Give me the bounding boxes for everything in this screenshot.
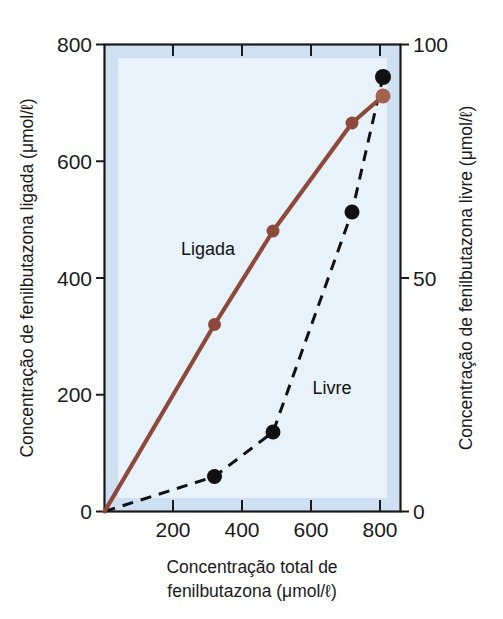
chart-figure: 800 600 400 200 0 100 50 0 bbox=[0, 0, 503, 619]
series-livre-point bbox=[345, 205, 360, 220]
series-label-livre: Livre bbox=[312, 378, 351, 398]
y-left-label-0: 0 bbox=[80, 500, 92, 523]
y-left-label-800: 800 bbox=[57, 33, 92, 56]
x-label-400: 400 bbox=[224, 518, 259, 541]
y-axis-right-title: Concentração de fenilbutazona livre (μmo… bbox=[456, 106, 476, 451]
series-livre-point bbox=[375, 69, 391, 85]
y-left-label-600: 600 bbox=[57, 150, 92, 173]
chart-svg: 800 600 400 200 0 100 50 0 bbox=[0, 0, 503, 619]
series-ligada-point bbox=[376, 89, 391, 104]
series-livre-point bbox=[266, 425, 281, 440]
x-axis-title-line2: fenilbutazona (μmol/ℓ) bbox=[167, 581, 336, 601]
series-ligada-point bbox=[346, 117, 359, 130]
y-left-label-400: 400 bbox=[57, 267, 92, 290]
y-left-label-200: 200 bbox=[57, 383, 92, 406]
x-label-800: 800 bbox=[362, 518, 397, 541]
y-axis-right-tick-labels: 100 50 0 bbox=[413, 33, 448, 523]
series-livre-point bbox=[207, 469, 222, 484]
y-right-label-0: 0 bbox=[413, 500, 425, 523]
series-ligada-point bbox=[267, 225, 280, 238]
x-label-200: 200 bbox=[155, 518, 190, 541]
x-axis-tick-labels: 200 400 600 800 bbox=[155, 518, 397, 541]
y-right-label-100: 100 bbox=[413, 33, 448, 56]
series-label-ligada: Ligada bbox=[181, 239, 236, 259]
y-axis-left-title: Concentração de fenilbutazona ligada (μm… bbox=[17, 98, 37, 457]
x-axis-title-line1: Concentração total de bbox=[166, 557, 337, 577]
y-axis-left-tick-labels: 800 600 400 200 0 bbox=[57, 33, 92, 523]
y-right-label-50: 50 bbox=[413, 267, 436, 290]
series-ligada-point bbox=[208, 318, 221, 331]
y-axis-left-ticks bbox=[96, 45, 105, 512]
y-axis-right-ticks bbox=[401, 45, 410, 512]
x-label-600: 600 bbox=[293, 518, 328, 541]
